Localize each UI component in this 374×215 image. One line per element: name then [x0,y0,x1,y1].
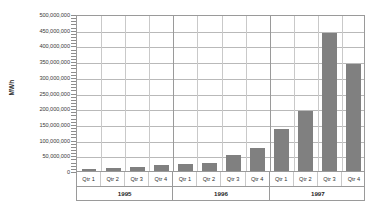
y-axis-tick-label: 300,000,000 [39,75,70,81]
bar [322,33,337,171]
x-axis-year-band: 199519961997 [76,187,365,201]
bar [82,169,97,171]
x-axis-quarter-label: Qtr 3 [125,172,149,186]
y-axis-tick-label: 350,000,000 [39,59,70,65]
bar [250,148,265,171]
bars-layer [77,16,364,171]
bar-chart: MWh 500,000,000450,000,000400,000,000350… [0,0,374,215]
bar [226,155,241,171]
bar [154,165,169,171]
x-axis-quarter-label: Qtr 2 [101,172,125,186]
x-axis-year-label: 1997 [270,187,366,200]
y-axis-tick-label: 500,000,000 [39,12,70,18]
x-axis: Qtr 1Qtr 2Qtr 3Qtr 4Qtr 1Qtr 2Qtr 3Qtr 4… [76,172,365,202]
y-axis-tick-label: 150,000,000 [39,122,70,128]
y-axis-tick-labels: 500,000,000450,000,000400,000,000350,000… [18,15,70,172]
x-axis-quarter-band: Qtr 1Qtr 2Qtr 3Qtr 4Qtr 1Qtr 2Qtr 3Qtr 4… [76,172,365,187]
x-axis-year-label: 1995 [77,187,173,200]
x-axis-quarter-label: Qtr 4 [342,172,366,186]
x-axis-year-label: 1996 [173,187,269,200]
bar [130,167,145,171]
x-axis-quarter-label: Qtr 3 [318,172,342,186]
x-axis-quarter-label: Qtr 2 [294,172,318,186]
y-axis-tick-label: 400,000,000 [39,43,70,49]
y-axis-tick-label: 100,000,000 [39,138,70,144]
bar [178,164,193,171]
y-axis-tick-label: 450,000,000 [39,28,70,34]
x-axis-quarter-label: Qtr 4 [246,172,270,186]
y-axis-title-text: MWh [8,80,15,96]
x-axis-quarter-label: Qtr 1 [77,172,101,186]
bar [346,64,361,171]
x-axis-quarter-label: Qtr 4 [149,172,173,186]
y-axis-tick-label: 0 [67,169,70,175]
bar [202,163,217,171]
bar [106,168,121,171]
x-axis-quarter-label: Qtr 2 [197,172,221,186]
x-axis-quarter-label: Qtr 1 [270,172,294,186]
y-axis-tick-label: 200,000,000 [39,106,70,112]
y-axis-tick-label: 50,000,000 [43,153,71,159]
x-axis-quarter-label: Qtr 3 [222,172,246,186]
y-axis-tick-label: 250,000,000 [39,91,70,97]
bar [298,111,313,171]
x-axis-quarter-label: Qtr 1 [173,172,197,186]
bar [274,129,289,171]
plot-area [76,15,365,172]
